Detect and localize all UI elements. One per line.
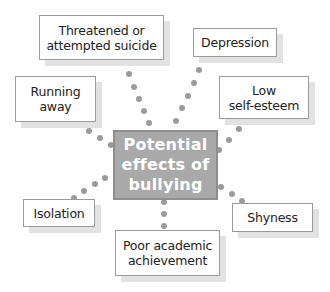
connector-dot (126, 71, 132, 77)
connector-dot (86, 128, 92, 134)
center-label-line: Potential (122, 135, 210, 155)
connector-dot (136, 96, 142, 102)
effect-label-line: Depression (201, 35, 269, 50)
connector-dot (161, 223, 167, 229)
effect-node-poor-academic-achievement: Poor academic achievement (115, 230, 220, 276)
effect-label-line: Running (31, 84, 81, 99)
connector-dot (179, 105, 185, 111)
effect-node-low-self-esteem: Low self-esteem (219, 76, 309, 119)
effect-node-depression: Depression (193, 28, 277, 57)
effect-label-line: Threatened or (46, 23, 156, 38)
connector-dot (185, 93, 191, 99)
center-label-line: bullying (122, 175, 210, 195)
center-node: Potential effects of bullying (113, 130, 218, 200)
connector-dot (141, 108, 147, 114)
connector-dot (196, 67, 202, 73)
connector-dot (173, 118, 179, 124)
effect-label-line: achievement (123, 253, 212, 268)
connector-dot (161, 211, 167, 217)
connector-dot (146, 120, 152, 126)
effect-label-line: Shyness (247, 210, 298, 225)
effect-label-line: Isolation (33, 206, 84, 221)
effect-node-shyness: Shyness (232, 203, 313, 232)
connector-dot (191, 80, 197, 86)
connector-dot (229, 191, 235, 197)
effect-label-line: Low (229, 83, 299, 98)
effect-label-line: Poor academic (123, 238, 212, 253)
connector-dot (97, 135, 103, 141)
effect-node-running-away: Running away (15, 76, 96, 122)
connector-dot (102, 175, 108, 181)
connector-dot (92, 181, 98, 187)
effect-label-line: attempted suicide (46, 38, 156, 53)
effect-node-isolation: Isolation (23, 199, 95, 227)
connector-dot (236, 126, 242, 132)
connector-dot (131, 84, 137, 90)
connector-dot (218, 184, 224, 190)
center-label-line: effects of (122, 155, 210, 175)
connector-dot (226, 137, 232, 143)
connector-dot (81, 188, 87, 194)
effect-label-line: away (31, 99, 81, 114)
effect-label-line: self-esteem (229, 98, 299, 113)
effect-node-threatened-suicide: Threatened or attempted suicide (39, 15, 164, 60)
